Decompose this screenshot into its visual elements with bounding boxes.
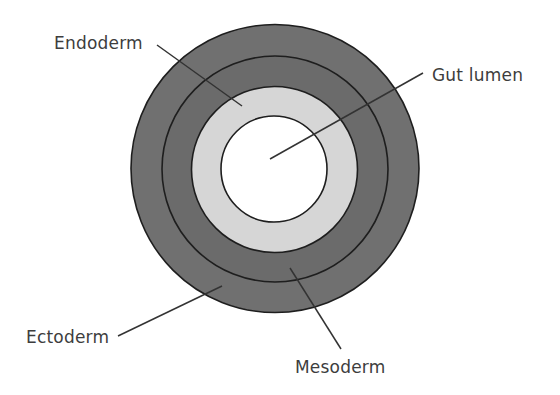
gut-lumen [221,116,327,222]
germ-layer-diagram: Endoderm Gut lumen Ectoderm Mesoderm [0,0,560,395]
concentric-rings [131,25,419,313]
endoderm-label: Endoderm [54,33,143,53]
ectoderm-label: Ectoderm [26,327,109,347]
mesoderm-label: Mesoderm [295,357,386,377]
ectoderm-leader [118,286,222,336]
gut-lumen-label: Gut lumen [432,65,523,85]
